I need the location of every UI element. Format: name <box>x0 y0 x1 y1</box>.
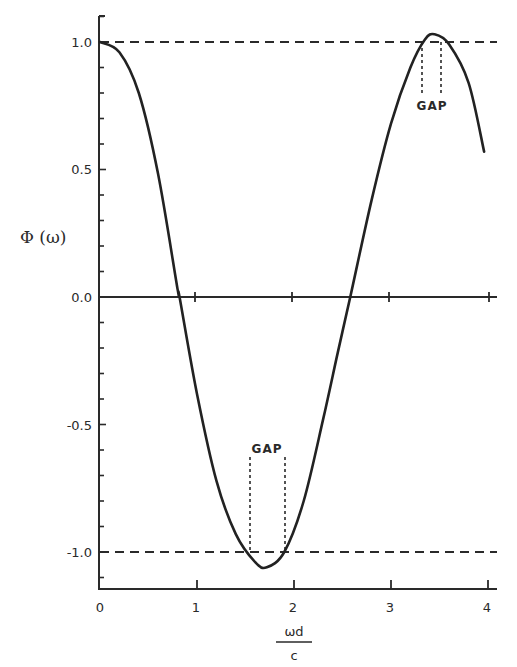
x-axis-label-numerator: ωd <box>284 624 303 639</box>
x-tick-label: 1 <box>192 600 200 615</box>
x-tick-label: 3 <box>386 600 394 615</box>
y-tick-label: 0.0 <box>71 290 92 305</box>
x-tick-label: 2 <box>289 600 297 615</box>
x-tick-label: 0 <box>96 600 104 615</box>
y-tick-label: -1.0 <box>67 545 92 560</box>
x-ticks <box>197 580 488 589</box>
y-axis-label: Φ (ω) <box>20 227 66 247</box>
chart-canvas: 1.0 0.5 0.0 -0.5 -1.0 0 1 2 3 4 Φ (ω) ωd… <box>0 0 517 667</box>
gap-label-lower: GAP <box>252 442 283 456</box>
y-tick-label: 0.5 <box>71 162 92 177</box>
x-axis-label-denominator: c <box>290 648 297 663</box>
x-tick-label: 4 <box>483 600 491 615</box>
gap-label-upper: GAP <box>417 99 448 113</box>
y-tick-label: 1.0 <box>71 35 92 50</box>
y-tick-label: -0.5 <box>67 418 92 433</box>
